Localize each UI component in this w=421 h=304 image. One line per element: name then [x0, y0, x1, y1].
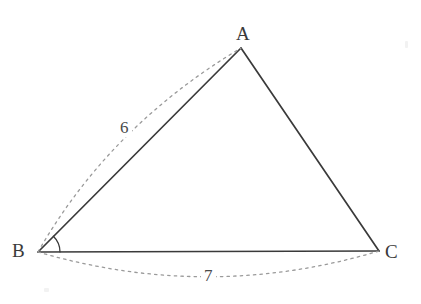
vertex-label-c: C — [385, 242, 398, 261]
angle-arc-b — [53, 236, 60, 252]
triangle-edge-ab — [38, 48, 241, 252]
scan-artifact-bottom-left — [44, 288, 49, 292]
scan-artifact-top-right — [405, 41, 408, 48]
triangle-edge-ac — [241, 48, 379, 251]
diagram-canvas: A B C 6 7 — [0, 0, 421, 304]
triangle-figure — [0, 0, 421, 304]
vertex-label-b: B — [12, 241, 25, 260]
triangle-edge-bc — [38, 251, 379, 252]
vertex-label-a: A — [236, 24, 250, 43]
side-length-label-ab: 6 — [117, 118, 132, 137]
side-length-label-bc: 7 — [201, 266, 216, 285]
